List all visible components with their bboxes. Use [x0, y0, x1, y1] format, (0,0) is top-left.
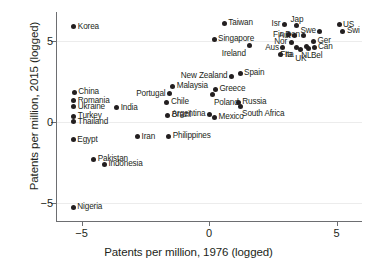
data-point-marker[interactable] — [71, 205, 76, 210]
data-point-marker[interactable] — [298, 47, 303, 52]
x-tick-label-0: −5 — [62, 227, 102, 239]
y-tick-label-0: 5 — [27, 35, 53, 47]
x-tick-mark-2 — [337, 221, 338, 226]
data-point-marker[interactable] — [71, 24, 76, 29]
data-point-label: Bel — [311, 52, 322, 60]
data-point-label: New Zealand — [157, 72, 227, 80]
data-point-label: Aus — [209, 44, 279, 52]
data-point-marker[interactable] — [166, 134, 171, 139]
gridline-y-0 — [56, 41, 362, 42]
data-point-marker[interactable] — [212, 115, 217, 120]
x-axis-title: Patents per million, 1976 (logged) — [0, 246, 377, 258]
data-point-label: UK — [295, 55, 306, 63]
data-point-marker[interactable] — [71, 104, 76, 109]
x-tick-mark-0 — [82, 221, 83, 226]
data-point-label: Can — [318, 43, 333, 51]
data-point-label: Mexico — [219, 113, 244, 121]
data-point-marker[interactable] — [282, 22, 287, 27]
data-point-label: Korea — [78, 23, 99, 31]
data-point-marker[interactable] — [301, 33, 306, 38]
data-point-label: Egypt — [77, 136, 97, 144]
data-point-marker[interactable] — [71, 119, 76, 124]
x-tick-label-1: 0 — [189, 227, 229, 239]
data-point-label: Iran — [142, 133, 156, 141]
data-point-label: Thailand — [78, 118, 108, 126]
data-point-label: Malaysia — [177, 82, 208, 90]
x-tick-label-2: 5 — [317, 227, 357, 239]
data-point-marker[interactable] — [238, 71, 243, 76]
data-point-marker[interactable] — [114, 105, 119, 110]
data-point-marker[interactable] — [229, 74, 234, 79]
data-point-marker[interactable] — [164, 100, 169, 105]
data-point-marker[interactable] — [311, 39, 316, 44]
data-point-marker[interactable] — [312, 45, 317, 50]
y-tick-label-2: −5 — [27, 197, 53, 209]
plot-area: 50−5 −505 KoreaTaiwanSingaporeIrelandIsr… — [56, 12, 362, 222]
x-tick-mark-1 — [209, 221, 210, 226]
data-point-label: Swi — [347, 27, 360, 35]
data-point-label: Indonesia — [108, 160, 142, 168]
y-axis-line — [56, 12, 57, 222]
data-point-label: Poland — [214, 99, 239, 107]
data-point-label: South Africa — [242, 110, 284, 118]
data-point-marker[interactable] — [337, 22, 342, 27]
data-point-marker[interactable] — [238, 104, 243, 109]
data-point-marker[interactable] — [72, 90, 77, 95]
data-point-marker[interactable] — [213, 87, 218, 92]
data-point-label: Jap — [291, 16, 304, 24]
y-tick-label-1: 0 — [27, 116, 53, 128]
data-point-marker[interactable] — [306, 46, 311, 51]
data-point-label: Chile — [171, 98, 189, 106]
data-point-label: Greece — [219, 85, 245, 93]
data-point-marker[interactable] — [289, 40, 294, 45]
data-point-marker[interactable] — [317, 29, 322, 34]
data-point-marker[interactable] — [165, 113, 170, 118]
data-point-marker[interactable] — [167, 91, 172, 96]
data-point-marker[interactable] — [102, 162, 107, 167]
data-point-marker[interactable] — [71, 98, 76, 103]
data-point-marker[interactable] — [91, 157, 96, 162]
data-point-marker[interactable] — [135, 134, 140, 139]
data-point-marker[interactable] — [170, 84, 175, 89]
data-point-label: Argentina — [136, 110, 206, 118]
data-point-label: Ita — [285, 51, 294, 59]
data-point-label: Spain — [244, 69, 264, 77]
y-axis-title: Patents per million, 2015 (logged) — [28, 0, 40, 216]
data-point-label: Nigeria — [77, 203, 102, 211]
data-point-label: Brazil — [172, 111, 192, 119]
data-point-label: Philippines — [173, 132, 211, 140]
data-point-marker[interactable] — [340, 29, 345, 34]
data-point-marker[interactable] — [71, 137, 76, 142]
data-point-marker[interactable] — [71, 114, 76, 119]
data-point-marker[interactable] — [210, 92, 215, 97]
data-point-label: Russia — [242, 98, 266, 106]
scatter-plot-figure: Patents per million, 2015 (logged) Paten… — [0, 0, 377, 269]
data-point-label: Ukraine — [78, 103, 105, 111]
